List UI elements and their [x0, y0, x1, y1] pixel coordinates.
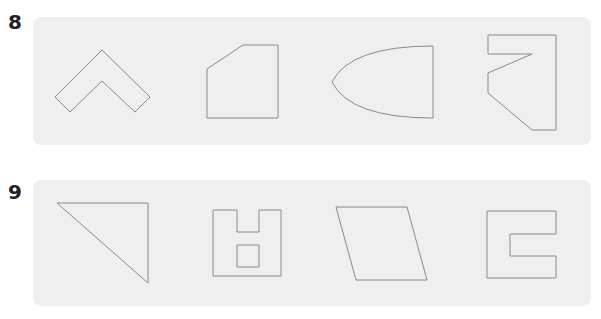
- shapes-canvas: [0, 0, 601, 319]
- right-triangle-shape[interactable]: [57, 203, 148, 283]
- notched-square-with-hole-shape[interactable]: [213, 210, 281, 276]
- cut-corner-square-shape[interactable]: [207, 45, 278, 118]
- chevron-shape[interactable]: [55, 50, 150, 112]
- half-ellipse-shape[interactable]: [332, 46, 433, 118]
- hook-shape[interactable]: [488, 35, 556, 130]
- parallelogram-shape[interactable]: [336, 207, 427, 280]
- c-shape[interactable]: [487, 211, 556, 278]
